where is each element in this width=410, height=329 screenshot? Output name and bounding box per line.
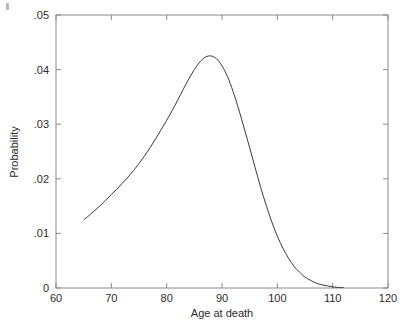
scan-artifact-mark <box>6 3 9 10</box>
x-tick-label: 120 <box>379 292 397 304</box>
y-tick-label: .04 <box>34 64 49 76</box>
x-tick-label: 90 <box>216 292 228 304</box>
y-tick-label: 0 <box>43 282 49 294</box>
y-tick-label: .03 <box>34 118 49 130</box>
y-tick-label: .01 <box>34 227 49 239</box>
x-tick-label: 100 <box>268 292 286 304</box>
chart-figure: 0.01.02.03.04.05 60708090100110120 Age a… <box>0 0 410 329</box>
chart-background <box>0 0 410 329</box>
probability-of-death-line-chart: 0.01.02.03.04.05 60708090100110120 Age a… <box>0 0 410 329</box>
x-tick-label: 80 <box>161 292 173 304</box>
x-tick-label: 110 <box>324 292 342 304</box>
x-tick-label: 70 <box>105 292 117 304</box>
x-axis-title: Age at death <box>191 307 253 319</box>
y-tick-label: .05 <box>34 9 49 21</box>
y-tick-label: .02 <box>34 173 49 185</box>
y-axis-title: Probability <box>8 126 20 178</box>
x-tick-label: 60 <box>50 292 62 304</box>
